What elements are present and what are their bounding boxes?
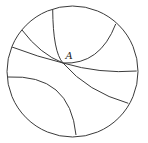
point-a-label: A <box>65 50 73 61</box>
geodesic-left-to-bottom <box>8 77 76 135</box>
geodesic-mid-left-to-right <box>12 47 137 72</box>
hyperbolic-disk-diagram: A <box>0 0 148 143</box>
